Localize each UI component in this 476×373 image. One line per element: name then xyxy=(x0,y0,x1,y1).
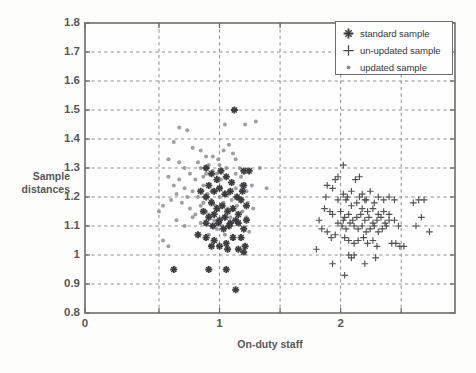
y-tick-label: 1 xyxy=(52,248,80,260)
y-tick-label: 1.1 xyxy=(52,219,80,231)
x-axis-label: On-duty staff xyxy=(180,338,360,350)
legend-item-un-updated-sample: un-updated sample xyxy=(342,42,440,58)
y-tick-label: 1.4 xyxy=(52,132,80,144)
y-tick-label: 0.9 xyxy=(52,277,80,289)
y-tick-label: 1.6 xyxy=(52,74,80,86)
x-tick-label: 0 xyxy=(75,317,95,329)
x-tick-label: 1 xyxy=(210,317,230,329)
legend-label: standard sample xyxy=(360,28,429,39)
y-tick-label: 1.5 xyxy=(52,103,80,115)
bold-plus-marker-icon xyxy=(342,27,355,40)
y-tick-label: 1.2 xyxy=(52,190,80,202)
y-tick-label: 1.3 xyxy=(52,161,80,173)
y-tick-label: 1.8 xyxy=(52,16,80,28)
legend: standard sample un-updated sample update… xyxy=(335,21,453,75)
legend-item-standard-sample: standard sample xyxy=(342,25,429,41)
legend-item-updated-sample: updated sample xyxy=(342,59,427,75)
thin-plus-marker-icon xyxy=(342,44,355,57)
legend-label: updated sample xyxy=(360,62,427,73)
y-tick-label: 1.7 xyxy=(52,45,80,57)
y-tick-label: 0.8 xyxy=(52,306,80,318)
x-tick-label: 2 xyxy=(331,317,351,329)
dot-marker-icon xyxy=(342,61,355,74)
legend-label: un-updated sample xyxy=(360,45,440,56)
